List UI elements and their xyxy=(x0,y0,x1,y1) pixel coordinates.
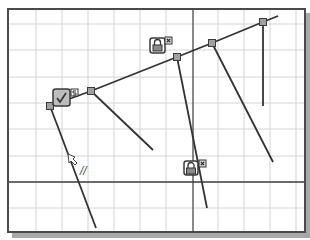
lock-icon xyxy=(187,168,196,174)
tangent-constraint-box[interactable] xyxy=(53,89,70,106)
point-p3[interactable] xyxy=(174,54,181,61)
point-p2[interactable] xyxy=(88,88,95,95)
lock-icon xyxy=(153,45,162,51)
sketch-canvas[interactable]: // xyxy=(0,0,310,240)
point-p5[interactable] xyxy=(260,19,267,26)
point-p4[interactable] xyxy=(209,40,216,47)
